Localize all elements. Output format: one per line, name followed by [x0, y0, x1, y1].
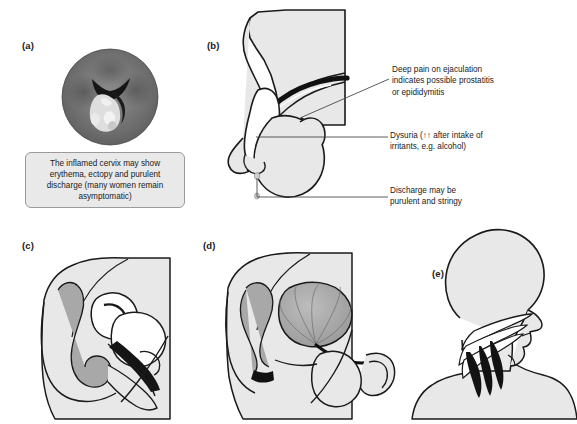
annotation-discharge: Discharge may be purulent and stringy [390, 185, 570, 208]
cervix-caption-text: The inflamed cervix may show erythema, e… [31, 158, 179, 203]
panel-label-a: (a) [22, 40, 34, 51]
panel-a-cervix-illustration [62, 49, 158, 145]
panel-label-b: (b) [207, 40, 219, 51]
panel-b-male-genitalia-illustration [228, 10, 347, 199]
panel-e-head-neck-illustration [412, 230, 577, 419]
panel-d-male-pelvis-illustration [226, 253, 395, 419]
panel-label-d: (d) [203, 240, 215, 251]
panel-label-c: (c) [22, 240, 34, 251]
panel-c-female-pelvis-illustration [41, 258, 170, 419]
annotation-dysuria: Dysuria (↑↑ after intake of irritants, e… [390, 130, 570, 153]
cervix-caption-box: The inflamed cervix may show erythema, e… [25, 152, 185, 208]
annotation-deep-pain-ejaculation: Deep pain on ejaculation indicates possi… [392, 64, 572, 98]
medical-figure: (a) (b) (c) (d) (e) The inflamed cervix … [0, 0, 577, 424]
panel-label-e: (e) [432, 268, 444, 279]
